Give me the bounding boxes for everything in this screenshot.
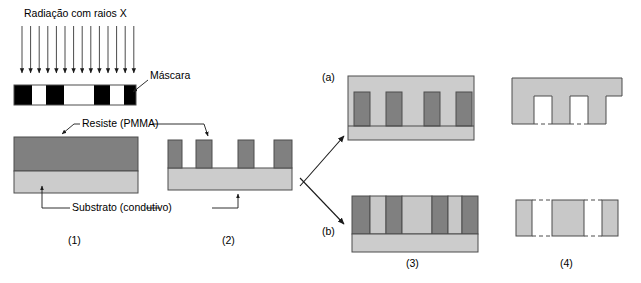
diagram-graphics bbox=[0, 0, 641, 283]
step-2-label: (2) bbox=[222, 235, 235, 246]
radiation-arrows bbox=[22, 26, 134, 73]
branch-b-label: (b) bbox=[322, 226, 335, 237]
branch-arrows bbox=[300, 136, 344, 224]
radiation-label: Radiação com raios X bbox=[24, 8, 127, 19]
mask-label: Máscara bbox=[150, 70, 190, 81]
step3b-stack bbox=[352, 196, 478, 252]
branch-a-label: (a) bbox=[322, 72, 335, 83]
step-3-label: (3) bbox=[406, 258, 419, 269]
mask-bar bbox=[14, 85, 136, 105]
step3a-stack bbox=[348, 76, 474, 140]
step4b-blocks bbox=[516, 200, 618, 236]
step1-stack bbox=[14, 137, 138, 193]
step-1-label: (1) bbox=[68, 235, 81, 246]
substrate-label: Substrato (condutivo) bbox=[72, 202, 172, 213]
resist-label: Resiste (PMMA) bbox=[82, 118, 158, 129]
step-4-label: (4) bbox=[560, 258, 573, 269]
step2-stack bbox=[168, 140, 292, 190]
step4a-comb bbox=[512, 78, 622, 124]
figure-canvas: Radiação com raios X Máscara Resiste (PM… bbox=[0, 0, 641, 283]
